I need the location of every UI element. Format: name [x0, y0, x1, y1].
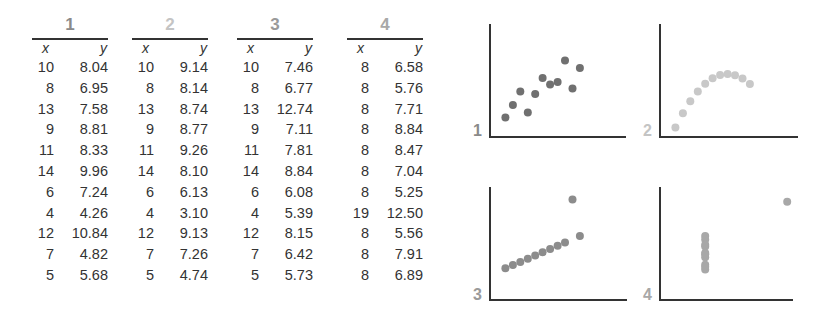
scatter-plot-4: 4	[643, 187, 793, 303]
data-point	[539, 248, 547, 256]
data-point	[701, 241, 709, 249]
data-point	[739, 75, 747, 83]
scatter-plot-1: 1	[473, 24, 626, 139]
data-point	[694, 87, 702, 95]
data-point	[569, 196, 577, 204]
data-point	[516, 88, 524, 96]
data-point	[509, 261, 517, 269]
data-point	[509, 101, 517, 109]
data-point	[701, 263, 709, 271]
data-point	[783, 198, 791, 206]
data-point	[724, 70, 732, 78]
scatter-plot-3: 3	[473, 187, 627, 303]
plot-label: 1	[473, 122, 482, 139]
data-point	[554, 78, 562, 86]
data-point	[679, 109, 687, 117]
data-point	[561, 239, 569, 247]
data-point	[731, 71, 739, 79]
data-point	[716, 71, 724, 79]
data-point	[701, 250, 709, 258]
plot-label: 2	[643, 122, 652, 139]
data-point	[524, 255, 532, 263]
data-point	[524, 109, 532, 117]
data-point	[686, 97, 694, 105]
data-point	[746, 80, 754, 88]
data-point	[516, 258, 524, 266]
data-point	[576, 232, 584, 240]
data-point	[701, 80, 709, 88]
scatter-plots: 1234	[0, 0, 822, 318]
plot-label: 3	[473, 286, 482, 303]
data-point	[569, 85, 577, 93]
data-point	[546, 245, 554, 253]
data-point	[539, 74, 547, 82]
data-point	[531, 251, 539, 259]
data-point	[501, 113, 509, 121]
data-point	[671, 124, 679, 132]
data-point	[709, 74, 717, 82]
data-point	[501, 264, 509, 272]
data-point	[546, 81, 554, 89]
data-point	[531, 90, 539, 98]
data-point	[561, 56, 569, 64]
plot-label: 4	[643, 286, 652, 303]
data-point	[576, 64, 584, 72]
scatter-plot-2: 2	[643, 24, 798, 139]
data-point	[554, 242, 562, 250]
